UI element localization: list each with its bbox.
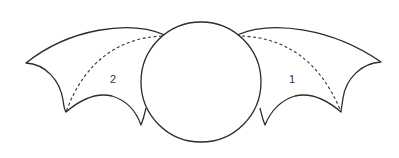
body-circle <box>141 22 261 142</box>
bat-diagram: 2 1 <box>0 0 399 158</box>
bat-figure-svg <box>0 0 399 158</box>
right-wing-label: 1 <box>289 74 295 85</box>
left-wing-label: 2 <box>110 74 116 85</box>
